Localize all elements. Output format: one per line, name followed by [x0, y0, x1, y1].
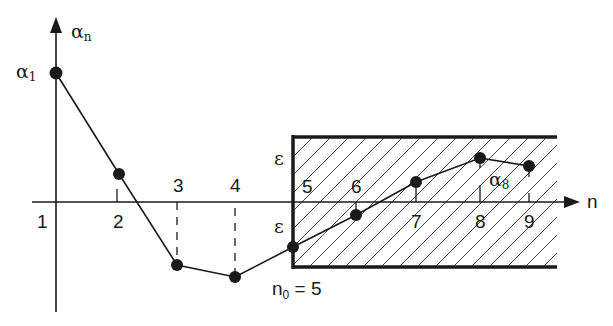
tick-label-7: 7 [411, 211, 422, 232]
epsilon-lower-label: ε [274, 215, 284, 237]
point-alpha-4 [229, 271, 241, 283]
point-alpha-1 [50, 67, 63, 80]
tick-label-2: 2 [113, 211, 124, 232]
point-alpha-7 [410, 176, 422, 188]
sequence-diagram: αn n α1 α8 1 2 3 4 5 6 7 8 9 ε ε n0 = 5 [0, 0, 613, 326]
tick-label-4: 4 [230, 175, 241, 196]
point-alpha-9 [523, 160, 535, 172]
point-alpha-5 [287, 241, 299, 253]
x-axis-arrow-icon [564, 196, 580, 208]
alpha-1-label: α1 [16, 60, 36, 84]
point-alpha-8 [474, 152, 486, 164]
y-axis-arrow-icon [50, 17, 62, 33]
y-axis-label: αn [71, 20, 92, 44]
tick-label-5: 5 [302, 176, 313, 197]
tick-label-3: 3 [173, 175, 184, 196]
n0-label: n0 = 5 [272, 278, 322, 302]
tick-label-1: 1 [37, 211, 48, 232]
point-alpha-3 [171, 259, 183, 271]
point-alpha-2 [113, 168, 125, 180]
tick-label-8: 8 [475, 211, 486, 232]
x-axis-label: n [587, 191, 598, 212]
point-alpha-6 [350, 209, 362, 221]
epsilon-upper-label: ε [274, 147, 284, 169]
tick-label-6: 6 [351, 176, 362, 197]
tick-label-9: 9 [524, 211, 535, 232]
